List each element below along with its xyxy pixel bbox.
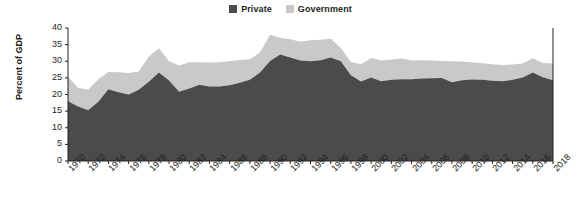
plot-area xyxy=(0,0,581,204)
stacked-area-chart: Private Government Percent of GDP 051015… xyxy=(0,0,581,204)
area-series-group xyxy=(68,35,553,161)
